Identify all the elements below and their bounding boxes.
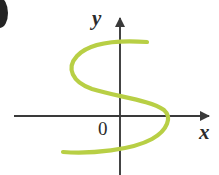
x-axis-label: x [199,122,210,143]
origin-label: 0 [98,119,108,138]
graph-canvas [0,0,219,175]
y-axis-label: y [92,8,101,29]
graph-figure: y x 0 [0,0,219,175]
curve-s-shape [63,41,168,152]
